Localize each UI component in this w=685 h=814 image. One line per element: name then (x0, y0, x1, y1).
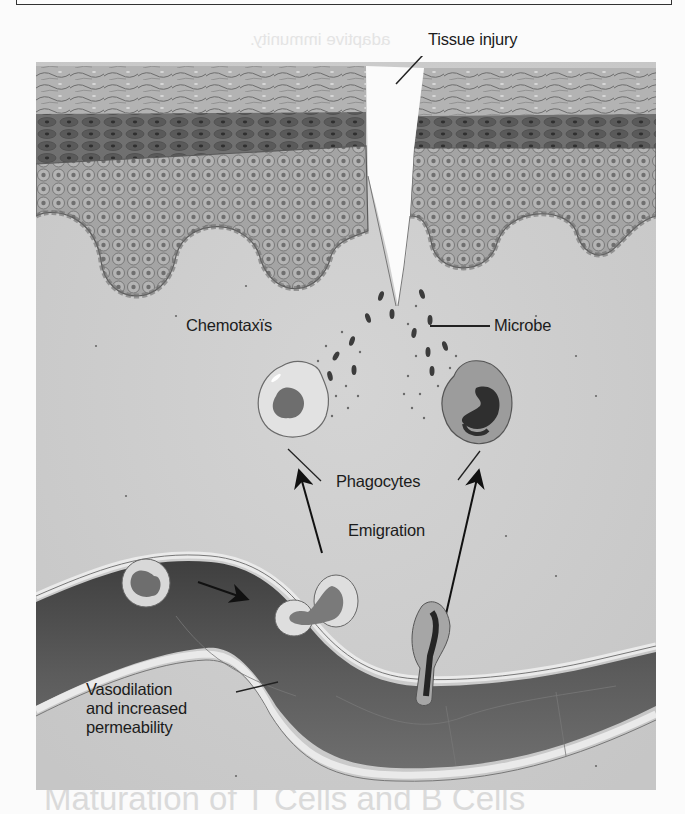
label-vasodilation: Vasodilation and increased permeability (86, 680, 187, 737)
microbe-pointer (430, 325, 490, 327)
inflammation-diagram: Tissue injury Chemotaxïs Microbe Phagocy… (36, 56, 656, 790)
label-phagocytes: Phagocytes (336, 472, 420, 491)
bleed-through-text: adaptive immunity. (250, 30, 390, 50)
label-chemotaxis: Chemotaxïs (186, 316, 272, 335)
label-vasodilation-line1: Vasodilation (86, 680, 187, 699)
label-emigration: Emigration (348, 521, 425, 540)
label-microbe: Microbe (494, 316, 551, 335)
label-vasodilation-line2: and increased (86, 699, 187, 718)
label-tissue-injury: Tissue injury (428, 30, 517, 49)
page-header-box (16, 0, 672, 5)
label-vasodilation-line3: permeability (86, 718, 187, 737)
leukocyte-in-vessel (122, 559, 170, 607)
